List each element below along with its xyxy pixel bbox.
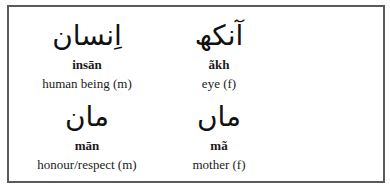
vocab-entry-akh: آنکھ ãkh eye (f): [139, 19, 299, 92]
meaning: eye (f): [139, 76, 299, 92]
vocab-entry-maa: ماں mã mother (f): [139, 100, 299, 173]
transliteration: ãkh: [139, 57, 299, 73]
transliteration: mã: [139, 138, 299, 154]
urdu-word: آنکھ: [139, 19, 299, 53]
urdu-word: ماں: [139, 100, 299, 134]
vocabulary-box: اِنسان insān human being (m) آنکھ ãkh ey…: [7, 5, 385, 183]
meaning: mother (f): [139, 157, 299, 173]
